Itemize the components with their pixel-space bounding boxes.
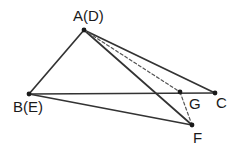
vertex-label-c: C bbox=[216, 95, 227, 110]
vertex-label-g: G bbox=[189, 96, 201, 111]
segment-BC bbox=[29, 93, 215, 94]
vertex-point-F bbox=[190, 123, 195, 128]
segment-BF bbox=[29, 94, 192, 125]
segment-AG-dashed bbox=[84, 30, 180, 92]
vertex-label-f: F bbox=[193, 130, 202, 145]
segment-AB bbox=[29, 30, 84, 94]
geometry-figure: A(D) B(E) C G F bbox=[0, 0, 240, 156]
segment-AF bbox=[84, 30, 192, 125]
segment-AC bbox=[84, 30, 215, 93]
figure-canvas bbox=[0, 0, 240, 156]
vertex-point-A bbox=[82, 28, 87, 33]
vertex-label-b-e: B(E) bbox=[13, 99, 43, 114]
vertex-point-B bbox=[27, 92, 32, 97]
vertex-point-G bbox=[178, 90, 183, 95]
vertex-label-a-d: A(D) bbox=[73, 8, 104, 23]
